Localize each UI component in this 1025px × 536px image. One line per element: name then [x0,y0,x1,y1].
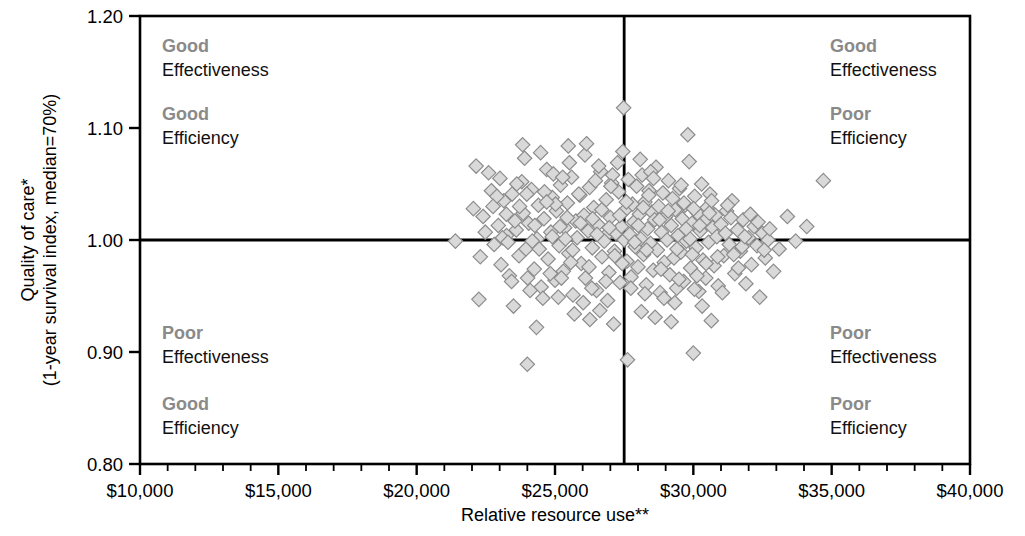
data-point [772,242,786,256]
quadrant-top-left-effectiveness-rating: Good [162,36,209,56]
data-point [800,219,814,233]
x-axis-tick-labels: $10,000$15,000$20,000$25,000$30,000$35,0… [107,480,1004,501]
x-axis-ticks [140,464,970,475]
quadrant-top-right-effectiveness-rating: Good [830,36,877,56]
data-point [491,218,505,232]
data-point [472,292,486,306]
data-point [506,299,520,313]
data-point [606,317,620,331]
data-point [816,173,830,187]
data-point [561,139,575,153]
data-point [681,128,695,142]
data-point [536,291,550,305]
y-axis-title-line2: (1-year survival index, median=70%) [40,94,60,387]
y-tick-label: 0.90 [87,342,123,363]
data-point [473,250,487,264]
x-tick-label: $25,000 [522,480,589,501]
data-point [478,225,492,239]
data-point [664,315,678,329]
y-axis-title-line1: Quality of care* [18,178,38,301]
quadrant-bottom-right-effectiveness-rating: Poor [830,323,871,343]
data-point [780,209,794,223]
x-tick-label: $40,000 [937,480,1004,501]
quadrant-top-right-effectiveness-label: Effectiveness [830,60,937,80]
quadrant-bottom-left-effectiveness-rating: Poor [162,323,203,343]
data-point [744,257,758,271]
quadrant-top-left-effectiveness-label: Effectiveness [162,60,269,80]
quadrant-bottom-left-efficiency-rating: Good [162,394,209,414]
data-point [766,264,780,278]
data-point [694,177,708,191]
data-point [579,136,593,150]
y-tick-label: 1.10 [87,118,123,139]
quadrant-bottom-left-efficiency-label: Efficiency [162,418,239,438]
y-axis-ticks [129,16,140,464]
data-point [517,151,531,165]
data-point [448,234,462,248]
data-point [541,252,555,266]
quadrant-bottom-left-effectiveness-label: Effectiveness [162,347,269,367]
data-point [583,312,597,326]
data-point-group [448,101,830,372]
data-point [695,299,709,313]
data-point [686,346,700,360]
quadrant-bottom-right-effectiveness-label: Effectiveness [830,347,937,367]
data-point [515,138,529,152]
chart-canvas: $10,000$15,000$20,000$25,000$30,000$35,0… [0,0,1025,536]
quadrant-bottom-right-efficiency-rating: Poor [830,394,871,414]
y-tick-label: 1.00 [87,230,123,251]
y-axis-tick-labels: 0.800.901.001.101.20 [87,6,123,475]
quadrant-top-left-efficiency-label: Efficiency [162,128,239,148]
quadrant-top-right-efficiency-label: Efficiency [830,128,907,148]
data-point [520,357,534,371]
data-point [648,310,662,324]
x-tick-label: $10,000 [107,480,174,501]
data-point [533,145,547,159]
data-point [585,241,599,255]
data-point [616,101,630,115]
y-tick-label: 1.20 [87,6,123,27]
data-point [739,276,753,290]
data-point [562,156,576,170]
y-tick-label: 0.80 [87,454,123,475]
data-point [789,234,803,248]
scatter-plot-figure: $10,000$15,000$20,000$25,000$30,000$35,0… [0,0,1025,536]
data-point [704,313,718,327]
x-tick-label: $35,000 [798,480,865,501]
data-point [469,159,483,173]
data-point [529,320,543,334]
quadrant-top-right-efficiency-rating: Poor [830,104,871,124]
data-point [682,154,696,168]
quadrant-bottom-right-efficiency-label: Efficiency [830,418,907,438]
data-point [633,152,647,166]
data-point [634,304,648,318]
x-axis-title: Relative resource use** [461,505,649,525]
data-point [551,290,565,304]
data-point [494,257,508,271]
x-tick-label: $15,000 [245,480,312,501]
x-tick-label: $30,000 [660,480,727,501]
quadrant-top-left-efficiency-rating: Good [162,104,209,124]
x-tick-label: $20,000 [383,480,450,501]
data-point [567,307,581,321]
data-point [753,290,767,304]
data-point [620,353,634,367]
